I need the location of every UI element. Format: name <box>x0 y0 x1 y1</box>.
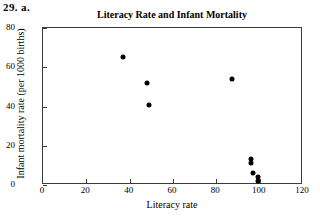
y-tick-label: 80 <box>0 23 15 32</box>
chart-title: Literacy Rate and Infant Mortality <box>42 9 302 20</box>
x-tick-label: 20 <box>70 186 100 195</box>
x-tick-mark <box>86 179 87 183</box>
x-tick-label: 80 <box>200 186 230 195</box>
y-tick-mark <box>43 107 47 108</box>
y-tick-mark <box>43 67 47 68</box>
data-point <box>147 102 152 107</box>
x-tick-mark <box>216 179 217 183</box>
y-tick-label: 0 <box>0 180 15 189</box>
y-tick-mark <box>43 146 47 147</box>
plot-area <box>42 27 302 184</box>
x-tick-label: 40 <box>114 186 144 195</box>
y-tick-label: 20 <box>0 140 15 149</box>
y-tick-mark <box>43 28 47 29</box>
x-tick-mark <box>130 179 131 183</box>
x-tick-label: 60 <box>157 186 187 195</box>
x-tick-mark <box>173 179 174 183</box>
x-tick-label: 100 <box>244 186 274 195</box>
data-point <box>229 77 234 82</box>
y-axis-title: Infant mortality rate (per 1000 births) <box>15 24 26 184</box>
x-tick-label: 0 <box>27 186 57 195</box>
x-tick-label: 120 <box>287 186 317 195</box>
y-tick-label: 40 <box>0 101 15 110</box>
problem-label: 29. a. <box>3 1 30 13</box>
x-tick-mark <box>260 179 261 183</box>
figure: 29. a. Literacy Rate and Infant Mortalit… <box>0 0 320 217</box>
data-point <box>145 80 150 85</box>
data-point <box>249 161 254 166</box>
y-tick-label: 60 <box>0 62 15 71</box>
x-axis-title: Literacy rate <box>42 199 302 210</box>
data-point <box>121 55 126 60</box>
